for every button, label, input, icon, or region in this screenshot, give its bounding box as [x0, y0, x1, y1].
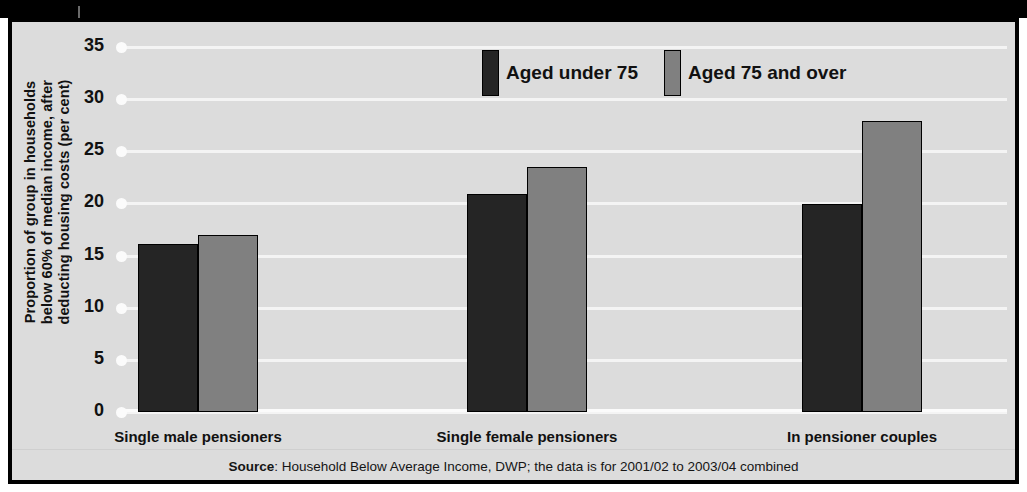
legend-label-75-and-over: Aged 75 and over [688, 62, 846, 84]
gridline-30 [122, 98, 1007, 101]
axis-tick-dot-15 [116, 251, 127, 262]
axis-tick-dot-20 [116, 198, 127, 209]
legend-swatch-icon-75-and-over [664, 50, 681, 96]
source-text: : Household Below Average Income, DWP; t… [274, 459, 798, 474]
y-tick-label-10: 10 [12, 296, 104, 317]
source-note: Source: Household Below Average Income, … [12, 459, 1015, 474]
bar-1-0 [467, 194, 527, 412]
legend-label-under-75: Aged under 75 [506, 62, 638, 84]
axis-tick-dot-10 [116, 303, 127, 314]
bar-2-0 [802, 204, 862, 412]
source-separator [12, 449, 1015, 450]
figure-interior: Proportion of group in households below … [12, 22, 1015, 480]
category-label-2: In pensioner couples [732, 428, 992, 445]
bar-2-1 [862, 121, 922, 412]
axis-tick-dot-30 [116, 94, 127, 105]
y-tick-label-20: 20 [12, 191, 104, 212]
category-label-1: Single female pensioners [397, 428, 657, 445]
legend-swatch-icon-under-75 [482, 50, 499, 96]
y-tick-label-5: 5 [12, 348, 104, 369]
chart-screenshot: Proportion of group in households below … [0, 0, 1027, 492]
bar-0-1 [198, 235, 258, 412]
bar-0-0 [138, 244, 198, 412]
y-tick-label-35: 35 [12, 35, 104, 56]
gridline-35 [122, 46, 1007, 49]
y-tick-label-15: 15 [12, 244, 104, 265]
figure-frame: Proportion of group in households below … [8, 18, 1019, 484]
axis-tick-dot-5 [116, 355, 127, 366]
axis-tick-dot-25 [116, 146, 127, 157]
y-tick-label-0: 0 [12, 400, 104, 421]
y-tick-label-25: 25 [12, 139, 104, 160]
category-label-0: Single male pensioners [68, 428, 328, 445]
chart-legend: Aged under 75 Aged 75 and over [482, 50, 846, 96]
bar-1-1 [527, 167, 587, 412]
axis-tick-dot-35 [116, 42, 127, 53]
y-tick-label-30: 30 [12, 87, 104, 108]
plot-area: Proportion of group in households below … [12, 22, 1015, 422]
legend-item-0: Aged under 75 [482, 50, 638, 96]
source-label: Source [228, 459, 274, 474]
top-black-band [0, 0, 1027, 18]
legend-item-1: Aged 75 and over [664, 50, 846, 96]
